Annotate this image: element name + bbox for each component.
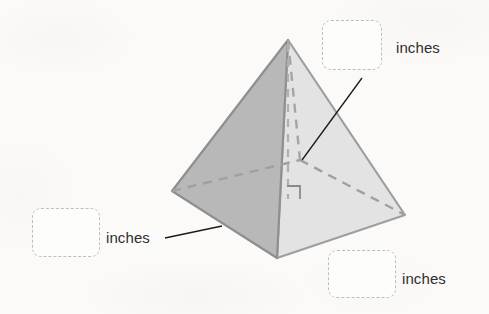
unit-label-base-edge: inches xyxy=(402,271,446,286)
answer-box-base-edge[interactable] xyxy=(328,250,396,298)
unit-label-height: inches xyxy=(396,40,440,55)
unit-label-left-edge: inches xyxy=(106,230,150,245)
pyramid-left-face xyxy=(172,40,288,258)
leader-line-left xyxy=(165,226,222,238)
answer-box-left-edge[interactable] xyxy=(32,208,100,257)
pyramid-right-face xyxy=(277,40,405,258)
answer-box-height[interactable] xyxy=(322,20,382,70)
worksheet-figure-page: inches inches inches xyxy=(0,0,489,314)
